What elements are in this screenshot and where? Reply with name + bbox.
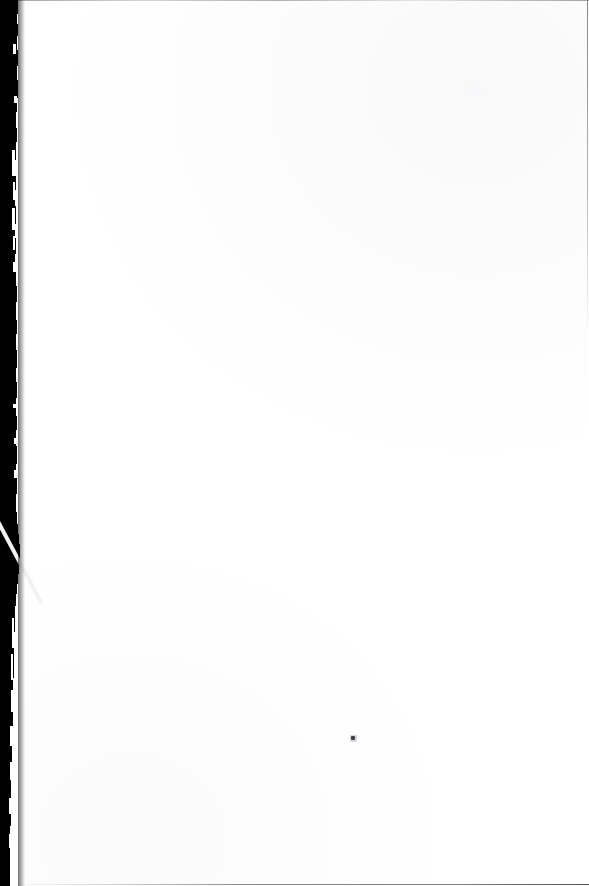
scan-gutter-nick (13, 44, 16, 54)
scan-gutter-slice (0, 606, 15, 618)
scan-gutter-slice (0, 14, 17, 24)
scan-gutter-slice (0, 286, 17, 302)
scan-gutter-slice (0, 446, 17, 464)
scan-gutter-nick (12, 208, 15, 230)
scan-gutter-slice (0, 382, 17, 398)
page-top-edge-rule (18, 0, 589, 1)
scan-gutter-nick (13, 182, 15, 200)
scan-gutter-nick (14, 96, 17, 103)
scan-gutter-slice (0, 416, 17, 430)
scan-gutter-slice (0, 710, 13, 726)
scan-gutter-nick (11, 654, 13, 680)
scan-gutter-slice (0, 564, 19, 574)
scan-gutter-nick (12, 150, 15, 176)
scan-gutter-slice (0, 24, 18, 36)
scan-gutter-nick (14, 470, 16, 478)
scan-gutter-nick (11, 690, 13, 712)
scan-gutter-nick (12, 618, 14, 648)
scan-gutter (0, 0, 40, 886)
scan-gutter-nick (13, 262, 15, 272)
scan-gutter-slice (0, 584, 17, 594)
scan-gutter-slice (0, 594, 16, 606)
scan-gutter-slice (0, 512, 17, 524)
scan-gutter-nick (9, 798, 11, 814)
scan-gutter-slice (0, 478, 17, 494)
page-bottom-edge-rule (12, 884, 589, 885)
scan-gutter-nick (10, 762, 12, 780)
page-right-edge-rule (587, 0, 588, 340)
scan-gutter-nick (10, 726, 12, 746)
scan-gutter-nick (14, 438, 16, 444)
scan-gutter-slice (0, 112, 16, 128)
scan-gutter-slice (0, 334, 16, 350)
page-text-content (60, 60, 540, 820)
scan-gutter-slice (0, 302, 16, 320)
scan-gutter-nick (13, 236, 15, 250)
scan-gutter-slice (0, 574, 18, 584)
scan-gutter-slice (0, 350, 17, 368)
scan-gutter-nick (13, 404, 16, 408)
scan-gutter-slice (0, 320, 17, 334)
scanned-page (0, 0, 589, 886)
scan-gutter-slice (0, 368, 16, 382)
scan-gutter-nick (9, 834, 11, 848)
scan-gutter-slice (0, 0, 18, 14)
scan-gutter-slice (0, 864, 10, 886)
scan-gutter-slice (0, 66, 17, 80)
scan-gutter-slice (0, 494, 16, 512)
scan-gutter-slice (0, 272, 16, 286)
scan-gutter-slice (0, 128, 17, 142)
